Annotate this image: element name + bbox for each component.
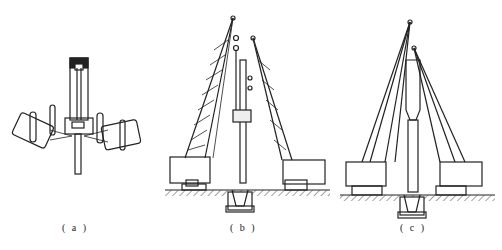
panel-a-drawing: [12, 58, 142, 174]
panel-label-c: ( c ): [400, 222, 426, 233]
panel-c-drawing: [340, 20, 495, 218]
panel-label-b: ( b ): [230, 222, 257, 233]
panel-b-drawing: [165, 16, 330, 212]
panel-label-a: ( a ): [62, 222, 88, 233]
figure-drawing: [0, 0, 502, 250]
